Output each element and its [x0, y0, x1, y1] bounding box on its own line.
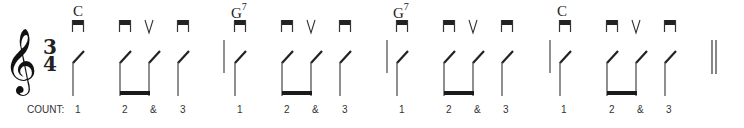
slash-notehead [73, 51, 84, 63]
down-bow-icon [559, 20, 571, 32]
slash-notehead [120, 51, 131, 63]
chord-symbol: G7 [393, 4, 409, 21]
down-bow-icon [339, 20, 351, 32]
slash-notehead [397, 51, 408, 63]
count-number: 2 [609, 105, 615, 115]
count-number: 2 [446, 105, 452, 115]
slash-notehead [665, 51, 676, 63]
count-number: 3 [503, 105, 509, 115]
count-number: & [474, 105, 481, 115]
measure-2 [224, 20, 351, 96]
count-number: & [637, 105, 644, 115]
chord-extension: 7 [242, 1, 247, 12]
count-number: 1 [75, 105, 81, 115]
down-bow-icon [281, 20, 293, 32]
up-bow-icon [469, 20, 477, 33]
slash-notehead [282, 51, 293, 63]
count-number: 3 [180, 105, 186, 115]
slash-notehead [444, 51, 455, 63]
down-bow-icon [72, 20, 84, 32]
count-number: 2 [284, 105, 290, 115]
chord-symbol: G7 [231, 4, 247, 21]
final-double-barline [712, 40, 716, 74]
time-signature-denominator: 4 [43, 54, 57, 74]
up-bow-icon [145, 20, 153, 33]
slash-notehead [178, 51, 189, 63]
eighth-note-beam [120, 91, 150, 95]
slash-notehead [560, 51, 571, 63]
down-bow-icon [501, 20, 513, 32]
eighth-note-beam [444, 91, 474, 95]
count-number: 1 [237, 105, 243, 115]
notation-canvas: 𝄞 [0, 0, 744, 128]
chord-name: C [557, 3, 567, 19]
count-number: 3 [342, 105, 348, 115]
slash-notehead [607, 51, 618, 63]
down-bow-icon [664, 20, 676, 32]
chord-name: G [231, 5, 242, 21]
count-number: 1 [561, 105, 567, 115]
up-bow-icon [632, 20, 640, 33]
slash-notehead [636, 51, 647, 63]
count-label: COUNT: [27, 105, 64, 115]
slash-notehead [235, 51, 246, 63]
slash-notehead [311, 51, 322, 63]
down-bow-icon [177, 20, 189, 32]
chord-symbol: C [557, 4, 567, 19]
down-bow-icon [396, 20, 408, 32]
count-number: & [312, 105, 319, 115]
measure-1 [72, 20, 189, 96]
count-number: 3 [666, 105, 672, 115]
svg-text:𝄞: 𝄞 [4, 28, 37, 96]
count-number: 1 [399, 105, 405, 115]
down-bow-icon [119, 20, 131, 32]
up-bow-icon [307, 20, 315, 33]
rhythm-strum-score: 𝄞 3 4 COUNT: C12&3G712&3G712&3C12&3 [0, 0, 744, 128]
eighth-note-beam [607, 91, 637, 95]
chord-name: C [73, 3, 83, 19]
eighth-note-beam [282, 91, 312, 95]
slash-notehead [473, 51, 484, 63]
chord-extension: 7 [404, 1, 409, 12]
slash-notehead [502, 51, 513, 63]
measure-3 [387, 20, 513, 96]
measure-4 [550, 20, 676, 96]
treble-clef-icon: 𝄞 [4, 28, 37, 96]
chord-name: G [393, 5, 404, 21]
down-bow-icon [443, 20, 455, 32]
chord-symbol: C [73, 4, 83, 19]
slash-notehead [340, 51, 351, 63]
slash-notehead [149, 51, 160, 63]
count-number: & [150, 105, 157, 115]
down-bow-icon [234, 20, 246, 32]
down-bow-icon [606, 20, 618, 32]
count-number: 2 [122, 105, 128, 115]
